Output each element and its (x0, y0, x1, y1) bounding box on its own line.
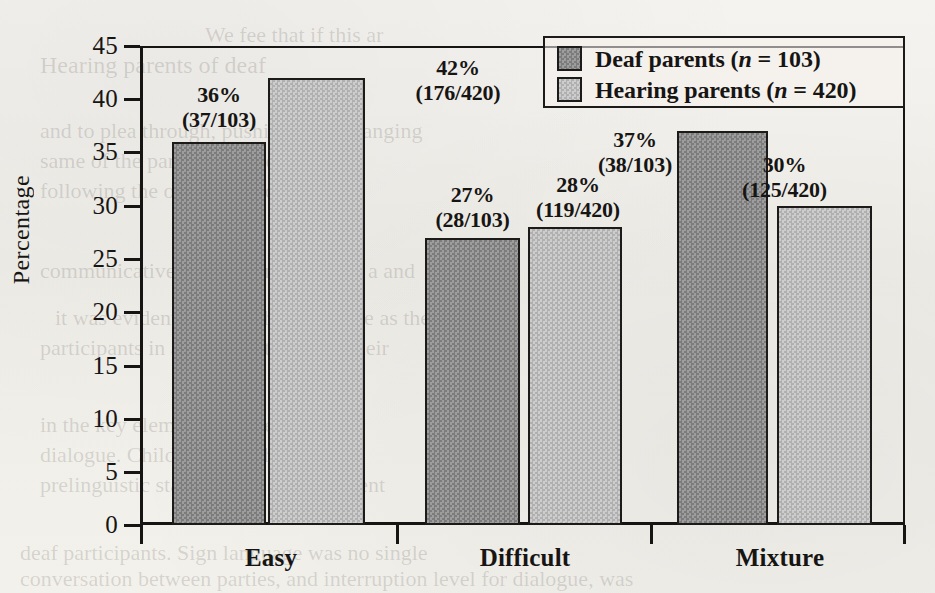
legend-text-suffix: = 420) (787, 77, 856, 103)
bar-easy-hearing[interactable] (268, 78, 365, 525)
x-tick-mark-left (140, 525, 143, 544)
legend-text-prefix: Deaf parents ( (595, 46, 738, 72)
bar-label-frac: (176/420) (378, 80, 538, 105)
bar-difficult-deaf[interactable] (425, 238, 520, 525)
bar-mixture-hearing[interactable] (777, 206, 872, 525)
y-tick-mark (124, 471, 140, 474)
chart-legend: Deaf parents (n = 103) Hearing parents (… (543, 36, 905, 108)
y-tick-label: 25 (93, 246, 118, 271)
y-tick-label: 0 (105, 512, 118, 537)
legend-text-italic-n: n (738, 46, 751, 72)
y-tick-label: 20 (93, 299, 118, 324)
y-tick-label: 35 (93, 139, 118, 164)
legend-text-italic-n: n (774, 77, 787, 103)
bar-label-pct: 37% (592, 127, 678, 152)
bar-label-mixture-deaf: 37% (38/103) (592, 127, 678, 177)
legend-text-prefix: Hearing parents ( (595, 77, 774, 103)
y-tick-mark (124, 418, 140, 421)
legend-item-hearing-parents[interactable]: Hearing parents (n = 420) (557, 74, 903, 105)
y-tick-label: 40 (93, 86, 118, 111)
bar-label-pct: 30% (712, 152, 857, 177)
y-tick-mark (124, 205, 140, 208)
y-tick-label: 15 (93, 353, 118, 378)
bar-chart-figure: Percentage 45 40 35 30 25 20 15 10 5 0 (0, 0, 935, 593)
bar-label-frac: (119/420) (510, 197, 646, 222)
legend-text-suffix: = 103) (752, 46, 821, 72)
bar-label-easy-hearing: 42% (176/420) (378, 55, 538, 105)
legend-swatch-deaf-icon (557, 46, 582, 71)
x-category-mixture: Mixture (685, 544, 875, 572)
x-category-difficult: Difficult (430, 544, 620, 572)
x-tick-mark-1 (396, 525, 399, 544)
bar-label-easy-deaf: 36% (37/103) (172, 82, 266, 132)
y-tick-mark (124, 258, 140, 261)
y-tick-label: 10 (93, 406, 118, 431)
x-tick-mark-right (903, 525, 906, 544)
y-tick-mark (124, 311, 140, 314)
y-axis-title: Percentage (8, 175, 34, 284)
bar-label-frac: (125/420) (712, 177, 857, 202)
y-tick-mark (124, 45, 140, 48)
bar-easy-deaf[interactable] (172, 142, 266, 525)
bar-label-difficult-hearing: 28% (119/420) (510, 172, 646, 222)
bar-label-frac: (38/103) (592, 152, 678, 177)
y-tick-mark (124, 98, 140, 101)
legend-swatch-hearing-icon (557, 77, 582, 102)
legend-item-deaf-parents[interactable]: Deaf parents (n = 103) (557, 43, 903, 74)
x-tick-mark-2 (650, 525, 653, 544)
bar-difficult-hearing[interactable] (528, 227, 622, 525)
bar-label-frac: (37/103) (172, 107, 266, 132)
legend-label-deaf-parents: Deaf parents (n = 103) (595, 46, 821, 72)
bar-label-mixture-hearing: 30% (125/420) (712, 152, 857, 202)
y-tick-label: 45 (93, 33, 118, 58)
y-tick-label: 5 (105, 459, 118, 484)
bar-label-pct: 42% (378, 55, 538, 80)
y-tick-label: 30 (93, 193, 118, 218)
legend-label-hearing-parents: Hearing parents (n = 420) (595, 77, 856, 103)
y-tick-mark (124, 365, 140, 368)
y-tick-mark (124, 524, 140, 527)
y-tick-mark (124, 151, 140, 154)
bar-label-pct: 36% (172, 82, 266, 107)
x-category-easy: Easy (176, 544, 366, 572)
